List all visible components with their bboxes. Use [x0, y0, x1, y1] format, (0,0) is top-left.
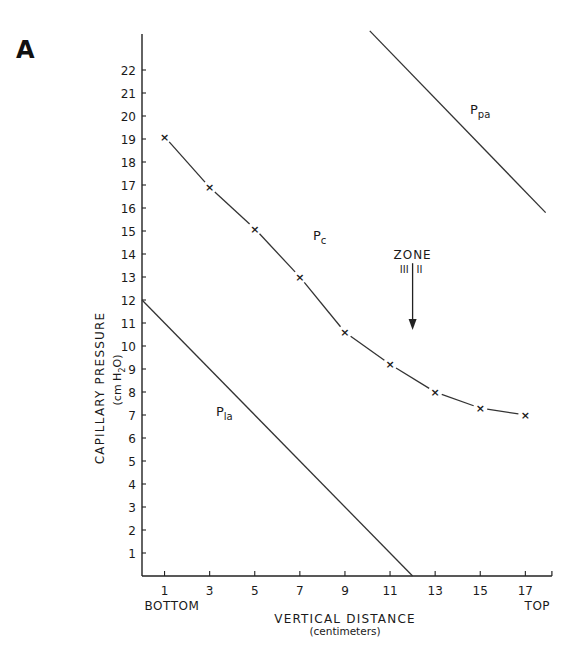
- pc-curve-segment: [442, 394, 474, 405]
- zone-right-label: II: [417, 264, 423, 275]
- y-tick-label: 11: [121, 317, 136, 331]
- x-tick-label: 9: [341, 584, 349, 598]
- x-tick-label: 13: [428, 584, 443, 598]
- pc-curve-segment: [215, 192, 250, 224]
- x-tick-label: 5: [251, 584, 259, 598]
- x-tick-label: 17: [518, 584, 533, 598]
- y-tick-label: 8: [128, 386, 136, 400]
- pc-data-marker-x: ×: [385, 358, 394, 371]
- y-tick-label: 22: [121, 64, 136, 78]
- pla-line: [142, 300, 413, 576]
- pc-curve-segment: [260, 234, 296, 272]
- y-tick-label: 14: [121, 248, 136, 262]
- y-tick-label: 3: [128, 501, 136, 515]
- pla-label: Pla: [216, 404, 233, 422]
- y-tick-label: 15: [121, 225, 136, 239]
- pc-data-marker-x: ×: [295, 271, 304, 284]
- y-tick-label: 17: [121, 179, 136, 193]
- y-tick-label: 19: [121, 133, 136, 147]
- y-tick-label: 9: [128, 363, 136, 377]
- y-tick-label: 4: [128, 478, 136, 492]
- x-axis-subtitle: (centimeters): [309, 625, 380, 637]
- pc-data-marker-x: ×: [205, 181, 214, 194]
- y-axis-title: CAPILLARY PRESSURE: [93, 312, 107, 465]
- pc-data-marker-x: ×: [431, 386, 440, 399]
- pc-data-marker-x: ×: [476, 402, 485, 415]
- pc-curve-segment: [396, 368, 429, 388]
- labels-layer: PcPpaPlaZONEIIIII: [216, 102, 490, 422]
- capillary-pressure-chart: 1234567891011121314151617181920212213579…: [0, 0, 577, 659]
- pc-data-marker-x: ×: [340, 326, 349, 339]
- pc-data-marker-x: ×: [160, 131, 169, 144]
- ppa-label: Ppa: [470, 102, 490, 120]
- y-tick-label: 7: [128, 409, 136, 423]
- x-end-label-bottom: BOTTOM: [145, 599, 200, 613]
- y-tick-label: 13: [121, 271, 136, 285]
- y-tick-label: 10: [121, 340, 136, 354]
- x-tick-label: 15: [473, 584, 488, 598]
- zone-arrow-head-icon: [409, 319, 417, 330]
- x-tick-label: 3: [206, 584, 214, 598]
- y-tick-label: 6: [128, 432, 136, 446]
- y-tick-label: 5: [128, 455, 136, 469]
- y-tick-label: 18: [121, 156, 136, 170]
- pc-curve-segment: [169, 142, 205, 182]
- pc-data-marker-x: ×: [250, 223, 259, 236]
- y-tick-label: 20: [121, 110, 136, 124]
- zone-label: ZONE: [393, 248, 431, 262]
- axes: 1234567891011121314151617181920212213579…: [93, 34, 552, 637]
- pc-curve-segment: [351, 336, 385, 360]
- pc-data-marker-x: ×: [521, 409, 530, 422]
- x-tick-label: 1: [161, 584, 169, 598]
- pc-curve-segment: [487, 409, 518, 414]
- y-tick-label: 2: [128, 524, 136, 538]
- ppa-line: [370, 31, 546, 213]
- pc-label: Pc: [313, 228, 326, 246]
- x-end-label-top: TOP: [524, 599, 551, 613]
- x-tick-label: 11: [382, 584, 397, 598]
- y-tick-label: 21: [121, 87, 136, 101]
- y-axis-subtitle: (cm H2O): [111, 355, 127, 406]
- y-tick-label: 16: [121, 202, 136, 216]
- zone-left-label: III: [400, 264, 409, 275]
- pc-curve-segment: [304, 282, 340, 326]
- y-tick-label: 12: [121, 294, 136, 308]
- x-tick-label: 7: [296, 584, 304, 598]
- x-axis-title: VERTICAL DISTANCE: [274, 612, 416, 626]
- y-tick-label: 1: [128, 547, 136, 561]
